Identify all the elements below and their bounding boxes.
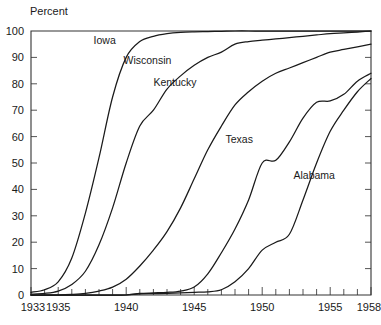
series-label-wisconsin: Wisconsin: [123, 54, 171, 66]
y-tick-label: 10: [12, 263, 24, 275]
y-tick-label: 70: [12, 104, 24, 116]
series-label-iowa: Iowa: [94, 34, 116, 46]
series-inline-labels: IowaWisconsinKentuckyTexasAlabama: [94, 34, 336, 181]
x-axis-tick-labels: 1933193519401945195019551958: [21, 301, 381, 313]
series-line-texas: [31, 73, 371, 295]
x-tick-label: 1950: [250, 301, 274, 313]
y-tick-label: 0: [18, 289, 24, 301]
y-tick-label: 90: [12, 51, 24, 63]
y-axis-title: Percent: [30, 5, 68, 17]
y-tick-label: 30: [12, 210, 24, 222]
x-tick-label: 1958: [357, 301, 381, 313]
x-tick-label: 1940: [114, 301, 138, 313]
series-label-texas: Texas: [225, 133, 252, 145]
y-tick-label: 50: [12, 157, 24, 169]
series-label-kentucky: Kentucky: [153, 76, 197, 88]
series-lines: [31, 31, 371, 295]
y-tick-label: 80: [12, 78, 24, 90]
series-label-alabama: Alabama: [293, 169, 335, 181]
y-tick-label: 20: [12, 236, 24, 248]
x-tick-label: 1945: [182, 301, 206, 313]
x-tick-label: 1955: [318, 301, 342, 313]
series-line-alabama: [31, 79, 371, 296]
x-tick-label: 1935: [46, 301, 70, 313]
x-tick-label: 1933: [21, 301, 45, 313]
y-axis-title-group: Percent: [30, 5, 68, 17]
chart-canvas: Percent 0102030405060708090100 193319351…: [0, 0, 381, 325]
y-axis-tick-labels: 0102030405060708090100: [6, 25, 24, 301]
y-tick-label: 40: [12, 183, 24, 195]
y-tick-label: 100: [6, 25, 24, 37]
y-tick-label: 60: [12, 131, 24, 143]
hybrid-corn-adoption-chart: Percent 0102030405060708090100 193319351…: [0, 0, 381, 325]
series-line-iowa: [31, 31, 371, 292]
